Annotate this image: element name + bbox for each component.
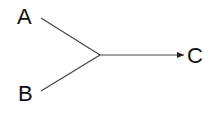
node-label-a: A bbox=[17, 6, 32, 28]
node-label-b: B bbox=[18, 83, 33, 105]
edge-a-to-junction bbox=[41, 18, 100, 55]
edge-b-to-junction bbox=[41, 55, 100, 91]
node-label-c: C bbox=[187, 45, 203, 67]
